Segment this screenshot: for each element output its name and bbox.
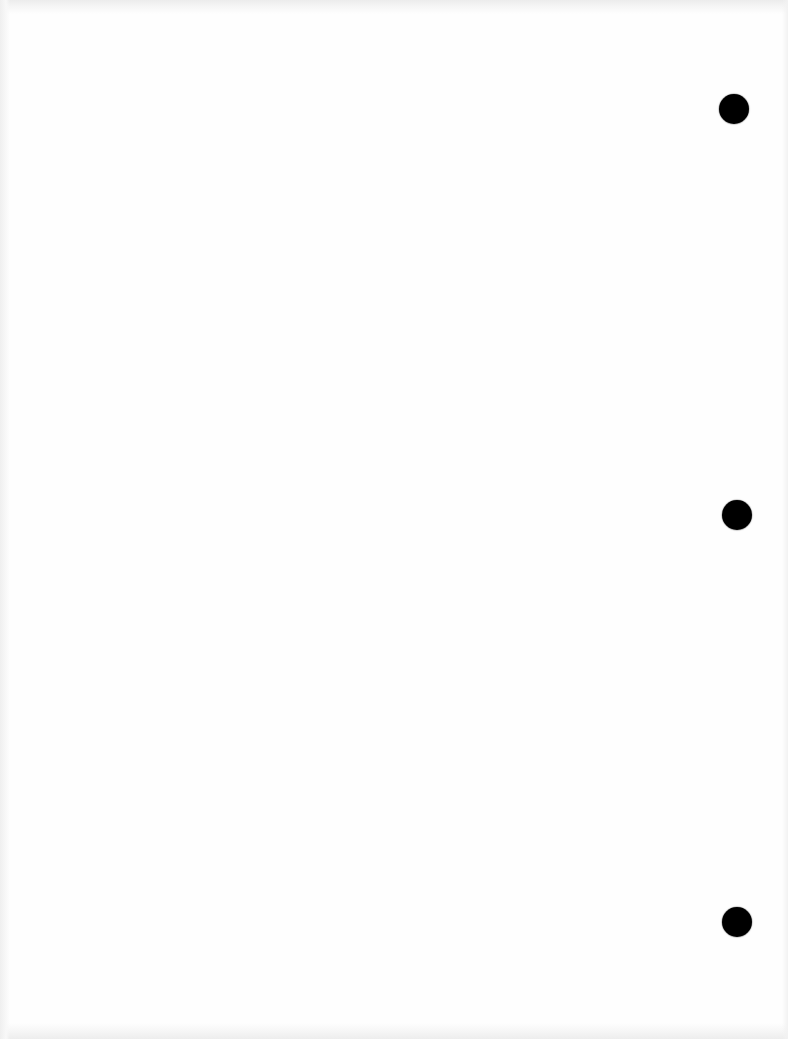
punch-hole-bottom xyxy=(722,907,752,937)
scanned-page xyxy=(0,0,788,1039)
scan-edge-shadow-right xyxy=(782,0,788,1039)
punch-hole-top xyxy=(719,94,749,124)
punch-hole-middle xyxy=(722,500,752,530)
scan-edge-shadow-left xyxy=(0,0,10,1039)
scan-edge-shadow-bottom xyxy=(0,1023,788,1039)
scan-edge-shadow-top xyxy=(0,0,788,14)
